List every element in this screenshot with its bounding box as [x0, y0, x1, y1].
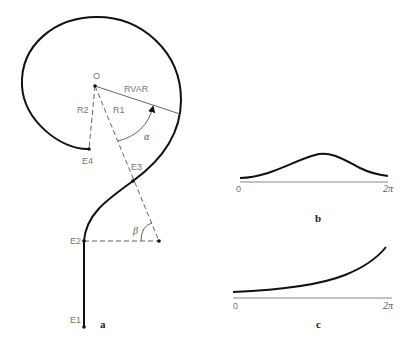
point-beta-center: [157, 239, 161, 243]
figure-canvas: O RVAR R2 R1 α E4 E3 β E2 E1 a 0 2π b 0 …: [0, 0, 412, 341]
panel-b-label: b: [315, 212, 321, 224]
panel-c-label: c: [316, 318, 321, 330]
panel-b-x-start: 0: [236, 184, 241, 194]
point-e3: [131, 179, 135, 183]
panel-c-x-end: 2π: [383, 300, 394, 311]
label-e4: E4: [82, 156, 93, 166]
label-r1: R1: [113, 105, 125, 115]
panel-c-curve: [233, 247, 386, 292]
label-rvar: RVAR: [124, 84, 149, 94]
point-e1: [82, 325, 86, 329]
beta-arc-icon: [141, 223, 152, 241]
spiral-curve: [22, 17, 181, 327]
panel-b-x-end: 2π: [383, 183, 394, 194]
point-o: [93, 84, 97, 88]
panel-c-chart: 0 2π c: [233, 247, 394, 330]
panel-b-chart: 0 2π b: [236, 154, 394, 224]
label-e3: E3: [131, 162, 142, 172]
r2-dashed-line: [89, 86, 95, 149]
panel-b-curve: [240, 154, 388, 178]
point-e4: [87, 147, 91, 151]
label-e1: E1: [70, 315, 81, 325]
panel-a-label: a: [100, 318, 106, 330]
panel-a-diagram: O RVAR R2 R1 α E4 E3 β E2 E1 a: [22, 17, 181, 330]
label-e2: E2: [70, 236, 81, 246]
label-alpha: α: [144, 131, 150, 142]
label-beta: β: [132, 225, 138, 236]
panel-c-x-start: 0: [233, 301, 238, 311]
label-r2: R2: [77, 105, 89, 115]
label-o: O: [93, 71, 100, 81]
r1-dashed-line: [95, 86, 159, 241]
point-e2: [82, 239, 86, 243]
